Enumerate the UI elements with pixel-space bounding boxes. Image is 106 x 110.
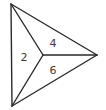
edge-left-side	[11, 4, 12, 106]
triangle-diagram: 2 4 6	[0, 0, 106, 110]
segment-to-top-vertex	[11, 4, 43, 55]
region-label-upper: 4	[50, 37, 57, 50]
region-label-left: 2	[21, 51, 28, 64]
region-label-lower: 6	[50, 64, 57, 77]
segment-to-bottom-vertex	[12, 55, 43, 106]
